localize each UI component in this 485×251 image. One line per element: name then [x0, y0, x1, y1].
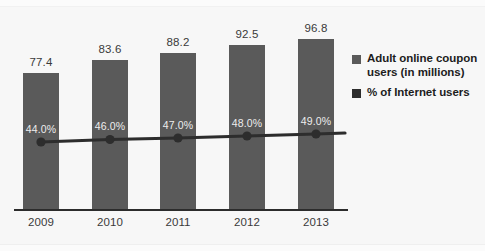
bar-group-2009: 77.4 2009 — [23, 73, 59, 210]
legend-swatch-line-icon — [352, 89, 361, 98]
axis-tick-2013: 2013 — [303, 216, 329, 228]
legend-item-bar-series[interactable]: Adult online coupon users (in millions) — [352, 52, 485, 79]
legend-swatch-bar-icon — [352, 55, 361, 64]
axis-tick-2010: 2010 — [97, 216, 123, 228]
axis-tick-2009: 2009 — [28, 216, 54, 228]
chart-legend: Adult online coupon users (in millions) … — [352, 52, 485, 107]
bar-value-label: 88.2 — [167, 36, 190, 48]
point-value-label-2010: 46.0% — [95, 120, 125, 132]
point-value-label-2011: 47.0% — [163, 119, 193, 131]
legend-label-bar-series: Adult online coupon users (in millions) — [367, 52, 485, 79]
legend-label-line-series: % of Internet users — [367, 86, 470, 100]
bar-rect[interactable] — [160, 53, 196, 210]
axis-tick-2011: 2011 — [165, 216, 190, 228]
bar-value-label: 77.4 — [30, 56, 53, 68]
point-value-label-2013: 49.0% — [301, 115, 331, 127]
point-value-label-2009: 44.0% — [26, 123, 56, 135]
axis-tick-2012: 2012 — [234, 216, 260, 228]
bar-rect[interactable] — [92, 60, 128, 210]
bar-value-label: 83.6 — [99, 43, 122, 55]
bar-rect[interactable] — [23, 73, 59, 210]
bar-value-label: 92.5 — [236, 28, 259, 40]
bar-group-2010: 83.6 2010 — [92, 60, 128, 210]
bar-value-label: 96.8 — [305, 22, 328, 34]
chart-figure: 77.4 2009 83.6 2010 88.2 2011 92.5 2012 … — [0, 0, 485, 251]
x-axis-line — [14, 209, 348, 211]
plot-area: 77.4 2009 83.6 2010 88.2 2011 92.5 2012 … — [0, 0, 360, 251]
bar-group-2011: 88.2 2011 — [160, 53, 196, 210]
legend-item-line-series[interactable]: % of Internet users — [352, 86, 485, 100]
point-value-label-2012: 48.0% — [232, 117, 262, 129]
